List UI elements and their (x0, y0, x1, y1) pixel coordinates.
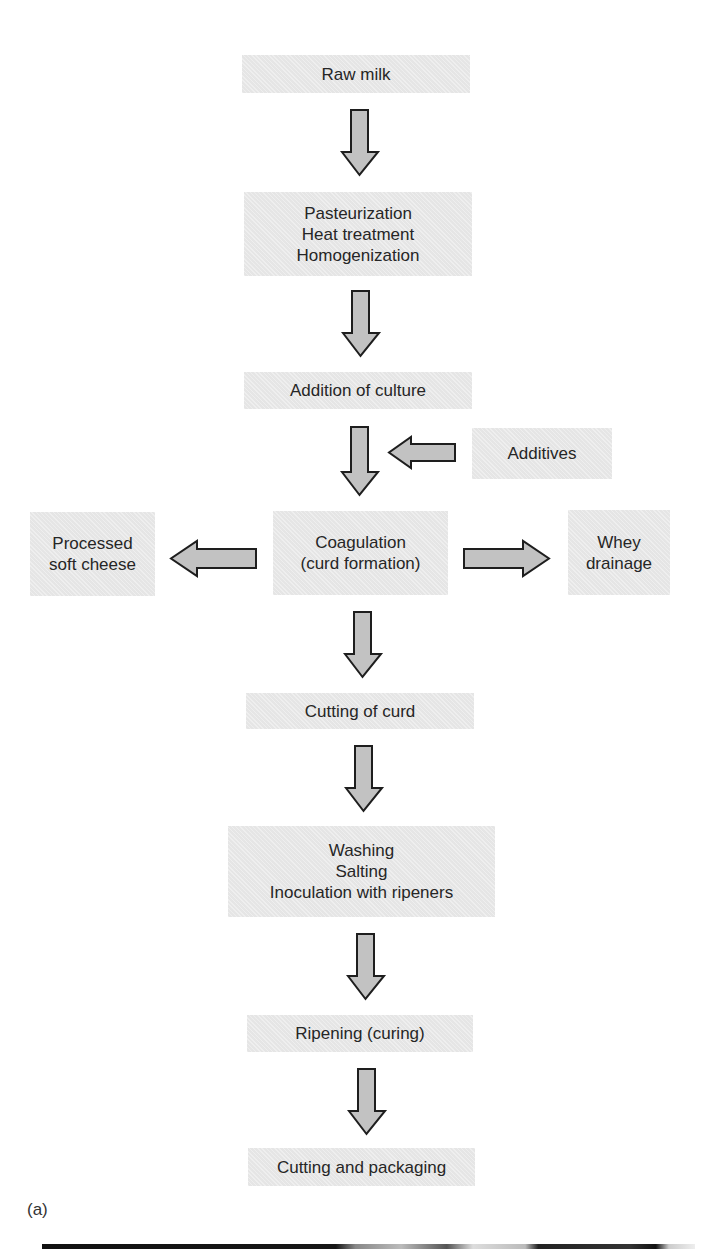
node-whey-drainage: Whey drainage (568, 510, 670, 595)
arrow-down-icon (344, 611, 382, 678)
step-text: Raw milk (322, 64, 391, 85)
step-text: Ripening (curing) (295, 1023, 424, 1044)
step-text: Addition of culture (290, 380, 426, 401)
step-text: Washing (329, 840, 395, 861)
step-cutting-of-curd: Cutting of curd (246, 693, 474, 729)
arrow-down-icon (341, 109, 379, 176)
arrow-down-icon (348, 1068, 386, 1135)
next-panel-photo-edge (42, 1244, 695, 1249)
step-text: Salting (336, 861, 388, 882)
panel-label: (a) (27, 1200, 48, 1220)
arrow-down-icon (342, 290, 380, 357)
step-cutting-and-packaging: Cutting and packaging (248, 1148, 475, 1186)
step-raw-milk: Raw milk (242, 55, 470, 93)
node-text: drainage (586, 553, 652, 574)
node-text: soft cheese (49, 554, 136, 575)
arrow-down-icon (341, 426, 379, 496)
step-text: Cutting of curd (305, 701, 416, 722)
step-text: Cutting and packaging (277, 1157, 446, 1178)
node-additives: Additives (472, 428, 612, 479)
step-addition-of-culture: Addition of culture (244, 372, 472, 409)
step-ripening: Ripening (curing) (247, 1015, 473, 1052)
step-pasteurization: Pasteurization Heat treatment Homogeniza… (244, 192, 472, 276)
step-coagulation: Coagulation (curd formation) (273, 511, 448, 595)
node-processed-soft-cheese: Processed soft cheese (30, 512, 155, 596)
step-text: (curd formation) (301, 553, 421, 574)
arrow-left-icon (170, 540, 258, 577)
step-text: Homogenization (297, 245, 420, 266)
node-text: Processed (52, 533, 132, 554)
node-text: Whey (597, 532, 640, 553)
arrow-left-icon (388, 436, 457, 469)
node-text: Additives (508, 443, 577, 464)
step-washing-salting-inoculation: Washing Salting Inoculation with ripener… (228, 826, 495, 917)
arrow-right-icon (463, 540, 551, 577)
arrow-down-icon (345, 745, 383, 812)
step-text: Pasteurization (304, 203, 412, 224)
step-text: Inoculation with ripeners (270, 882, 453, 903)
step-text: Coagulation (315, 532, 406, 553)
step-text: Heat treatment (302, 224, 414, 245)
arrow-down-icon (347, 933, 385, 1000)
